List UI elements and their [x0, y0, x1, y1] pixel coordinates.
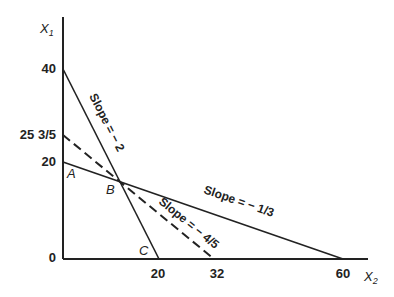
point-c-label: C [139, 243, 149, 258]
slope-minus-2-label: Slope = − 2 [86, 91, 127, 154]
line-slope-minus-1-3 [63, 162, 343, 259]
slope-minus-4-5-label: Slope = − 4/5 [156, 194, 222, 251]
y-tick-25-3-5: 25 3/5 [20, 127, 56, 142]
x-tick-32: 32 [210, 266, 224, 281]
x-axis-label: X2 [363, 269, 378, 286]
line-slope-minus-4-5 [63, 135, 214, 259]
point-b-label: B [106, 182, 115, 197]
y-tick-20: 20 [42, 154, 56, 169]
chart: X1 X2 40 25 3/5 20 0 20 32 60 A B C Slop… [0, 0, 394, 297]
point-a-label: A [66, 166, 76, 181]
x-tick-20: 20 [151, 266, 165, 281]
y-tick-0: 0 [49, 250, 56, 265]
x-tick-60: 60 [336, 266, 350, 281]
y-tick-40: 40 [42, 61, 56, 76]
line-slope-minus-2 [63, 69, 159, 259]
y-axis-label: X1 [39, 21, 54, 38]
